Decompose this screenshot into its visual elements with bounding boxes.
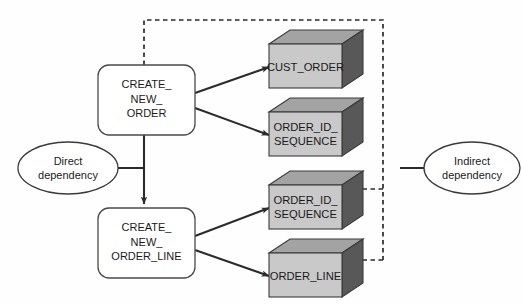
table-cube-order-line[interactable]: ORDER_LINE <box>269 239 363 297</box>
process-box-create-new-order[interactable]: CREATE_ NEW_ ORDER <box>98 65 195 135</box>
arrow-orderline-to-order-line <box>195 250 269 276</box>
table-cube-order-id-sequence-2[interactable]: ORDER_ID_ SEQUENCE <box>269 171 363 229</box>
cube-front-face <box>269 185 342 229</box>
arrow-orderline-to-order-id-sequence-2 <box>195 208 269 236</box>
diagram-svg: CUST_ORDER ORDER_ID_ SEQUENCE ORDER_ID_ … <box>0 0 522 304</box>
ellipse-shape <box>424 142 520 194</box>
table-cube-order-id-sequence-1[interactable]: ORDER_ID_ SEQUENCE <box>269 98 363 156</box>
arrow-order-to-order-id-sequence-1 <box>195 108 269 135</box>
arrow-order-to-cust-order <box>195 67 269 93</box>
process-box-create-new-order-line[interactable]: CREATE_ NEW_ ORDER_LINE <box>98 208 195 278</box>
ellipse-shape <box>18 142 118 194</box>
cube-front-face <box>269 44 342 88</box>
cube-front-face <box>269 253 342 297</box>
process-box-shape <box>98 65 195 135</box>
process-box-shape <box>98 208 195 278</box>
legend-ellipse-direct-dependency[interactable]: Direct dependency <box>18 142 118 194</box>
diagram-canvas: CUST_ORDER ORDER_ID_ SEQUENCE ORDER_ID_ … <box>0 0 522 304</box>
table-cube-cust-order[interactable]: CUST_ORDER <box>267 30 363 88</box>
cube-front-face <box>269 112 342 156</box>
legend-ellipse-indirect-dependency[interactable]: Indirect dependency <box>424 142 520 194</box>
